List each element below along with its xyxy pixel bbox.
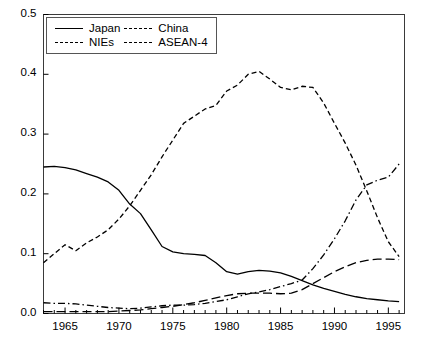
legend-label-china: China <box>156 21 209 35</box>
series-line-nies <box>44 71 400 262</box>
x-tick-label: 1995 <box>363 320 413 332</box>
chart-legend: Japan China NIEs ASEAN-4 <box>46 17 217 54</box>
y-tick-label: 0.1 <box>2 246 37 258</box>
x-tick-label: 1990 <box>309 320 359 332</box>
x-tick-label: 1975 <box>148 320 198 332</box>
legend-key-nies <box>53 35 87 49</box>
x-tick-label: 1980 <box>202 320 252 332</box>
x-tick-label: 1965 <box>40 320 90 332</box>
y-tick-label: 0.2 <box>2 186 37 198</box>
legend-key-japan <box>53 21 87 35</box>
legend-label-asean4: ASEAN-4 <box>156 35 209 49</box>
legend-key-asean4 <box>122 35 156 49</box>
legend-label-nies: NIEs <box>87 35 122 49</box>
x-tick-label: 1970 <box>94 320 144 332</box>
series-line-china <box>44 164 400 309</box>
legend-key-china <box>122 21 156 35</box>
legend-label-japan: Japan <box>87 21 122 35</box>
x-tick-label: 1985 <box>256 320 306 332</box>
y-tick-label: 0.3 <box>2 126 37 138</box>
line-chart: Japan China NIEs ASEAN-4 0.00.10.20.30.4… <box>0 0 427 341</box>
series-line-japan <box>44 166 400 301</box>
y-tick-label: 0.4 <box>2 66 37 78</box>
y-tick-label: 0.5 <box>2 7 37 19</box>
y-tick-label: 0.0 <box>2 306 37 318</box>
